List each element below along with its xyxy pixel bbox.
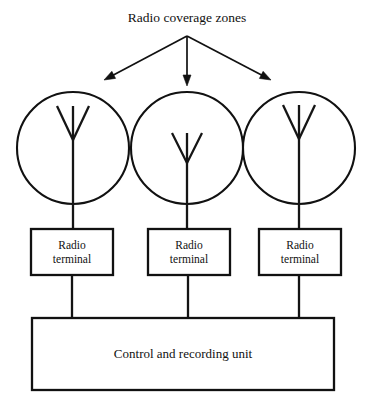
arrow-to-center-zone xyxy=(183,36,191,86)
pointer-arrow-group xyxy=(104,36,271,86)
radio-terminal-left-label-line2: terminal xyxy=(53,253,91,265)
diagram-canvas: Radio coverage zones RadioterminalRadiot… xyxy=(0,0,371,409)
diagram-title: Radio coverage zones xyxy=(128,10,246,25)
radio-terminal-right-label-line1: Radio xyxy=(286,239,314,251)
control-and-recording-unit-label: Control and recording unit xyxy=(114,346,253,361)
radio-terminal-center-label-line1: Radio xyxy=(175,239,203,251)
connector-group xyxy=(72,275,299,318)
radio-network-diagram: Radio coverage zones RadioterminalRadiot… xyxy=(0,0,371,409)
radio-terminal-left-rect[interactable] xyxy=(31,229,113,275)
antenna-group xyxy=(57,105,315,229)
radio-terminal-right-rect[interactable] xyxy=(259,229,341,275)
radio-terminal-left-label-line1: Radio xyxy=(58,239,86,251)
radio-terminal-right-label-line2: terminal xyxy=(281,253,319,265)
arrow-to-left-zone xyxy=(104,36,187,80)
arrow-to-right-zone xyxy=(187,36,271,80)
right-antenna xyxy=(283,105,315,229)
terminal-box-group: RadioterminalRadioterminalRadioterminal xyxy=(31,229,341,275)
radio-terminal-center-rect[interactable] xyxy=(148,229,230,275)
radio-terminal-left[interactable]: Radioterminal xyxy=(31,229,113,275)
center-antenna xyxy=(172,133,202,229)
control-and-recording-unit: Control and recording unit xyxy=(32,318,334,390)
left-antenna xyxy=(57,106,89,229)
radio-terminal-center[interactable]: Radioterminal xyxy=(148,229,230,275)
radio-terminal-right[interactable]: Radioterminal xyxy=(259,229,341,275)
radio-terminal-center-label-line2: terminal xyxy=(170,253,208,265)
